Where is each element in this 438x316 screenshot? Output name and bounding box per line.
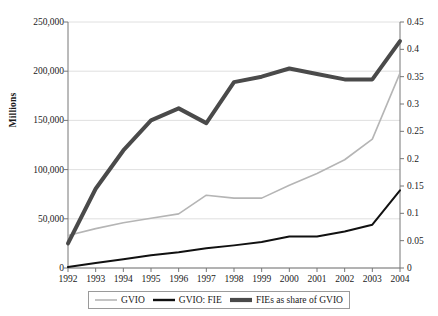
legend-swatch-gvio xyxy=(95,295,117,305)
legend-item-fies-share[interactable]: FIEs as share of GVIO xyxy=(230,295,343,305)
legend-item-gvio-fie[interactable]: GVIO: FIE xyxy=(153,295,222,305)
chart-legend: GVIO GVIO: FIE FIEs as share of GVIO xyxy=(88,291,350,309)
series-line-gvio-fie xyxy=(68,190,400,267)
chart-container: Millions 050,000100,000150,000200,000250… xyxy=(0,0,438,316)
legend-swatch-gvio-fie xyxy=(153,295,175,305)
legend-item-gvio[interactable]: GVIO xyxy=(95,295,145,305)
legend-swatch-fies-share xyxy=(230,295,252,305)
legend-label-gvio: GVIO xyxy=(121,295,145,305)
legend-label-gvio-fie: GVIO: FIE xyxy=(179,295,222,305)
legend-label-fies-share: FIEs as share of GVIO xyxy=(256,295,343,305)
series-line-gvio xyxy=(68,73,400,235)
plot-area xyxy=(0,0,438,316)
